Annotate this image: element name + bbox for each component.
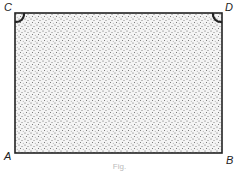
vertex-label-a: A (4, 150, 11, 162)
rectangle-diagram (0, 0, 239, 176)
vertex-label-d: D (225, 1, 233, 13)
figure-caption: Fig. (0, 162, 239, 171)
vertex-label-c: C (4, 1, 12, 13)
stippled-rectangle (15, 13, 222, 153)
